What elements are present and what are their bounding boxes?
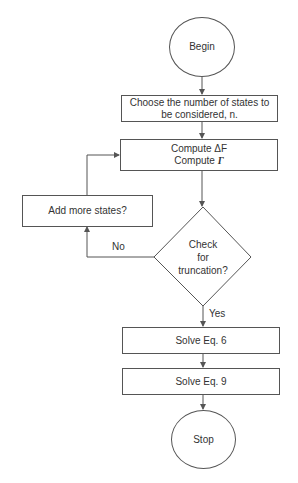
check-truncation-node: Check for truncation? (160, 237, 246, 277)
choose-states-node: Choose the number of states to be consid… (121, 95, 278, 122)
edge-label-yes: Yes (209, 308, 225, 320)
compute-line-1: Compute ΔF (171, 143, 227, 155)
stop-label: Stop (193, 434, 214, 446)
edge-label-no: No (112, 241, 125, 253)
stop-node: Stop (171, 410, 236, 469)
add-more-states-node: Add more states? (22, 195, 153, 227)
solve9-label: Solve Eq. 9 (175, 376, 226, 388)
choose-line-1: Choose the number of states to (130, 97, 270, 109)
solve-eq9-node: Solve Eq. 9 (122, 368, 280, 395)
gamma-symbol: Γ (218, 155, 224, 166)
compute-node: Compute ΔF Compute Γ (120, 139, 278, 171)
compute-line-2-prefix: Compute (174, 155, 217, 166)
solve6-label: Solve Eq. 6 (175, 335, 226, 347)
check-line-3: truncation? (178, 264, 227, 277)
connector-lines (0, 0, 298, 483)
add-states-label: Add more states? (48, 205, 126, 217)
choose-line-2: be considered, n. (161, 109, 238, 121)
check-line-1: Check (189, 238, 217, 251)
solve-eq6-node: Solve Eq. 6 (122, 327, 280, 354)
compute-line-2: Compute Γ (174, 155, 223, 167)
edge-add-states-compute (87, 155, 119, 195)
check-line-2: for (197, 251, 209, 264)
begin-label: Begin (189, 41, 215, 53)
begin-node: Begin (169, 17, 235, 77)
